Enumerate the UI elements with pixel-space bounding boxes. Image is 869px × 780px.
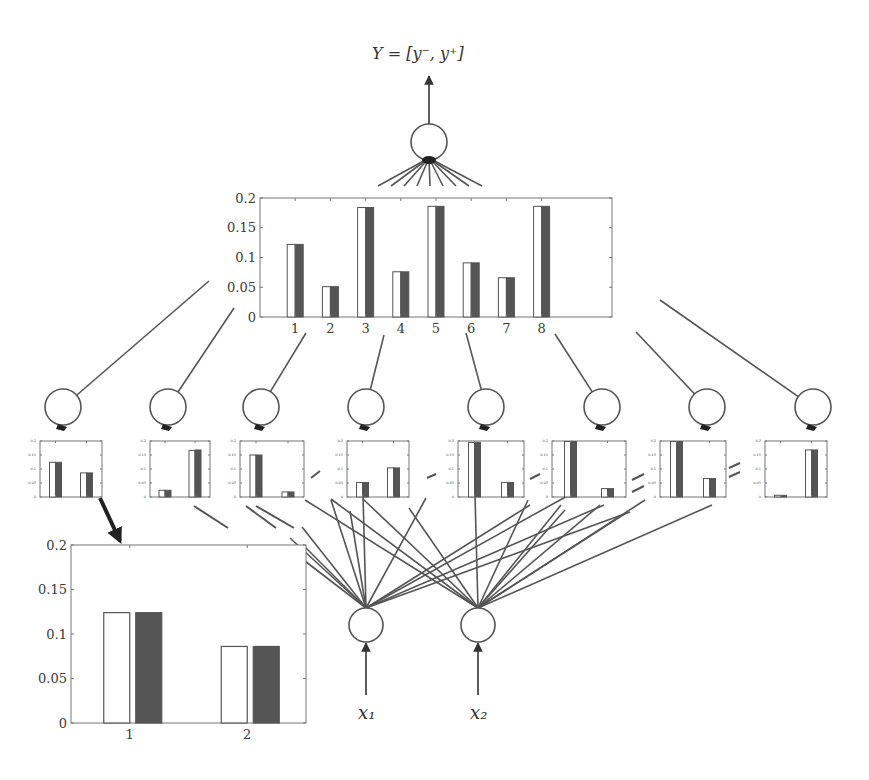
x-tick-label: 4 (397, 321, 405, 336)
edge-x2-to-rule (409, 508, 478, 608)
edge-top-to-rule-5 (466, 333, 481, 390)
y-tick-label: 0.15 (648, 453, 656, 457)
bar-upper (677, 442, 683, 497)
x-tick-label: 7 (502, 321, 510, 336)
y-tick-label: 0 (144, 495, 146, 499)
bar-upper (136, 613, 162, 723)
bar-upper (812, 450, 818, 497)
y-tick-label: 0.1 (755, 467, 761, 471)
y-tick-label: 0.2 (650, 439, 656, 443)
x-tick-label: 6 (467, 321, 475, 336)
edge-top-to-rule-2 (178, 308, 234, 392)
rule-node-6 (584, 389, 620, 425)
edge-segment (632, 474, 644, 480)
bar-lower (357, 482, 363, 497)
y-tick-label: 0.05 (38, 671, 67, 686)
input-node-x1 (349, 608, 383, 642)
edge-x1-to-rule (302, 527, 366, 608)
y-tick-label: 0.2 (755, 439, 761, 443)
y-tick-label: 0.15 (335, 453, 343, 457)
y-tick-label: 0 (59, 716, 67, 731)
edge-top-to-rule-7 (636, 332, 695, 394)
y-tick-label: 0.1 (230, 467, 236, 471)
y-tick-label: 0.2 (448, 439, 454, 443)
y-tick-label: 0 (759, 495, 761, 499)
bar-lower (565, 442, 571, 497)
y-tick-label: 0.05 (753, 481, 761, 485)
chart-rule-node-6: 00.050.10.150.2 (540, 439, 626, 499)
chart-rule-node-2: 00.050.10.150.2 (138, 439, 210, 499)
rule-node-8 (795, 389, 831, 425)
zoom-arrow (100, 498, 120, 541)
x-tick-label: 8 (537, 321, 545, 336)
y-tick-label: 0.1 (650, 467, 656, 471)
y-tick-label: 0.2 (46, 538, 67, 553)
bar-lower (358, 208, 366, 317)
y-tick-label: 0.2 (542, 439, 548, 443)
edge-top-to-rule-1 (77, 281, 209, 395)
x-tick-label: 2 (243, 727, 251, 742)
rule-node-5 (468, 389, 504, 425)
y-tick-label: 0.2 (337, 439, 343, 443)
edge-output-fan (429, 158, 469, 186)
x-tick-label: 1 (291, 321, 299, 336)
chart-axes-frame (552, 441, 626, 497)
y-tick-label: 0.15 (28, 453, 36, 457)
bar-lower (775, 495, 781, 497)
output-label: Y = [y⁻, y⁺] (372, 44, 464, 63)
x-tick-label: 3 (361, 321, 369, 336)
edge-top-to-rule-4 (370, 335, 384, 390)
y-tick-label: 0 (546, 495, 548, 499)
edge-output-fan (429, 158, 482, 186)
bar-upper (195, 450, 201, 497)
neural-network-diagram: 1234567800.050.10.150.200.050.10.150.200… (0, 0, 869, 780)
bar-upper (295, 244, 303, 317)
input-node-x2 (461, 608, 495, 642)
bar-lower (221, 646, 247, 723)
rule-node-2 (150, 389, 186, 425)
y-tick-label: 0.05 (227, 280, 256, 295)
bar-upper (87, 473, 93, 497)
input-label-x2: x₂ (470, 702, 487, 723)
chart-enlarged-rule-node-1: 1200.050.10.150.2 (38, 538, 306, 742)
bar-upper (506, 278, 514, 317)
y-tick-label: 0.05 (335, 481, 343, 485)
chart-rule-node-3: 00.050.10.150.2 (228, 439, 304, 499)
x-tick-label: 2 (326, 321, 334, 336)
input-label-x1: x₁ (358, 702, 375, 723)
output-node-junction (422, 156, 436, 164)
y-tick-label: 0 (34, 495, 36, 499)
bar-upper (165, 490, 171, 497)
bar-upper (366, 208, 374, 317)
bar-lower (159, 490, 165, 497)
edge-x2-to-rule (478, 505, 561, 608)
y-tick-label: 0.1 (235, 250, 256, 265)
edge-x2-to-rule (478, 505, 600, 608)
bar-lower (104, 613, 130, 723)
bar-upper (471, 263, 479, 317)
bar-lower (81, 473, 87, 497)
y-tick-label: 0.1 (46, 627, 67, 642)
bar-lower (287, 244, 295, 317)
rule-node-3 (243, 389, 279, 425)
bar-lower (428, 206, 436, 317)
y-tick-label: 0.15 (540, 453, 548, 457)
bar-upper (475, 442, 481, 497)
edge-x2-to-rule (475, 495, 478, 608)
edge-segment (194, 506, 228, 528)
bar-upper (710, 479, 716, 497)
bar-lower (806, 450, 812, 497)
y-tick-label: 0.15 (446, 453, 454, 457)
bar-upper (542, 206, 550, 317)
bar-upper (571, 442, 577, 497)
edge-x2-to-rule (478, 505, 712, 608)
y-tick-label: 0.05 (540, 481, 548, 485)
y-tick-label: 0.2 (30, 439, 36, 443)
edge-segment (729, 472, 740, 477)
edge-segment (427, 474, 436, 478)
bar-upper (401, 272, 409, 317)
edge-segment (729, 463, 740, 468)
edge-x1-to-rule (366, 512, 630, 608)
bar-upper (394, 468, 400, 497)
rule-node-7 (689, 389, 725, 425)
